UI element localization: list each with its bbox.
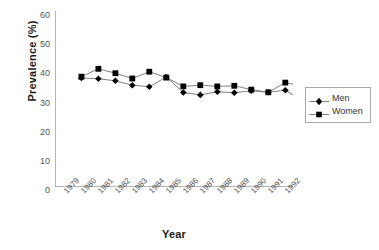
legend-item-men[interactable]: Men (308, 92, 367, 105)
chart-legend: Men Women (305, 87, 371, 123)
data-point-square (180, 84, 186, 90)
data-point-square (129, 76, 135, 82)
data-point-square (197, 82, 203, 88)
y-tick-label: 10 (28, 157, 50, 166)
chart-canvas (55, 11, 293, 187)
data-point-diamond (231, 90, 238, 97)
legend-marker-diamond-icon (308, 93, 330, 104)
x-axis-tick-labels: 1979198019811982198319841985198619871988… (55, 187, 293, 227)
data-point-square (96, 66, 102, 72)
data-point-diamond (146, 83, 153, 90)
legend-marker-square-icon (308, 106, 330, 117)
data-point-diamond (282, 87, 289, 94)
legend-label-women: Women (330, 106, 363, 117)
data-point-diamond (129, 82, 136, 89)
data-point-square (113, 70, 119, 76)
y-tick-label: 40 (28, 69, 50, 78)
data-point-diamond (197, 92, 204, 99)
axis-lines (55, 11, 293, 187)
data-point-diamond (112, 78, 119, 85)
y-axis-tick-labels: 60 50 40 30 20 10 0 (26, 0, 50, 250)
data-point-square (214, 84, 220, 90)
data-point-square (231, 83, 237, 89)
data-point-square (265, 89, 271, 95)
data-point-diamond (214, 88, 221, 95)
y-tick-label: 0 (28, 186, 50, 195)
legend-item-women[interactable]: Women (308, 105, 367, 118)
y-tick-label: 30 (28, 99, 50, 108)
plot-area (55, 11, 293, 187)
chart-figure: Prevalence (%) 60 50 40 30 20 10 0 19791… (0, 0, 379, 250)
data-point-diamond (95, 76, 102, 83)
y-tick-label: 60 (28, 11, 50, 20)
y-tick-label: 50 (28, 40, 50, 49)
legend-label-men: Men (330, 93, 350, 104)
x-axis-title: Year (55, 228, 293, 240)
data-point-square (282, 80, 288, 86)
data-series-layer (78, 66, 293, 104)
data-point-square (79, 74, 85, 80)
y-tick-label: 20 (28, 128, 50, 137)
data-point-square (163, 75, 169, 81)
data-point-square (248, 87, 254, 93)
data-point-square (146, 69, 152, 75)
